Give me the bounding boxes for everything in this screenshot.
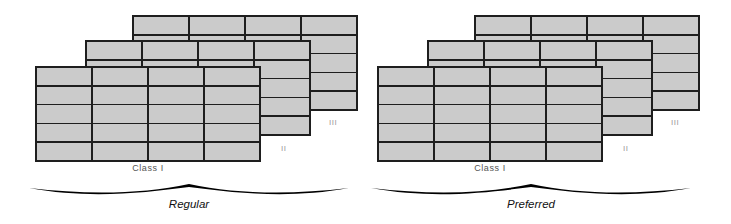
table-cell [205,143,259,160]
table-cell [491,105,545,122]
class-i-label: Class I [377,163,603,173]
table-cell [547,124,601,141]
table-cell [435,105,489,122]
table-cell [491,68,545,85]
table-cell [246,17,300,34]
class-iii-label: III [329,118,337,127]
table-cell [435,68,489,85]
table-cell [134,17,188,34]
rate-table-class-i [377,66,603,162]
table-cell [547,87,601,104]
table-cell [547,143,601,160]
table-cell [255,98,309,115]
table-cell [435,87,489,104]
rate-table-class-i [35,66,261,162]
underbrace-icon [28,182,350,198]
class-iii-label: III [671,118,679,127]
table-cell [379,68,433,85]
table-cell [149,143,203,160]
table-cell [143,42,197,59]
class-ii-label: II [623,144,628,153]
table-cell [541,42,595,59]
table-cell [37,68,91,85]
rate-table-group-regular: III II Class I Regular [0,0,365,224]
table-cell [429,42,483,59]
table-cell [435,124,489,141]
table-cell [379,87,433,104]
table-cell [379,124,433,141]
table-cell [205,105,259,122]
table-cell [190,17,244,34]
table-cell [597,42,651,59]
table-cell [87,42,141,59]
table-cell [644,17,698,34]
table-cell [93,143,147,160]
table-cell [37,105,91,122]
table-cell [547,68,601,85]
table-cell [205,87,259,104]
table-cell [205,68,259,85]
rate-table-group-preferred: III II Class I Preferred [342,0,707,224]
table-cell [255,61,309,78]
class-ii-label: II [281,144,286,153]
table-cell [93,68,147,85]
table-cell [547,105,601,122]
class-i-label: Class I [35,163,261,173]
table-cell [588,17,642,34]
table-cell [476,17,530,34]
underbrace-icon [370,182,692,198]
table-cell [491,124,545,141]
table-cell [149,68,203,85]
table-cell [93,87,147,104]
table-cell [532,17,586,34]
table-cell [597,98,651,115]
table-cell [37,143,91,160]
table-cell [491,143,545,160]
table-cell [37,124,91,141]
table-cell [491,87,545,104]
table-grid [35,66,261,162]
table-cell [93,105,147,122]
table-cell [255,42,309,59]
table-cell [255,117,309,134]
group-caption-preferred: Preferred [370,198,692,210]
table-cell [379,143,433,160]
group-caption-regular: Regular [28,198,350,210]
table-cell [255,79,309,96]
table-cell [205,124,259,141]
table-cell [597,117,651,134]
table-cell [149,105,203,122]
table-cell [435,143,489,160]
table-cell [37,87,91,104]
table-grid [377,66,603,162]
table-cell [597,79,651,96]
table-cell [199,42,253,59]
table-cell [149,124,203,141]
table-cell [93,124,147,141]
table-cell [149,87,203,104]
table-cell [597,61,651,78]
figure-canvas: III II Class I Regular III II Class I Pr… [0,0,731,224]
table-cell [485,42,539,59]
table-cell [379,105,433,122]
